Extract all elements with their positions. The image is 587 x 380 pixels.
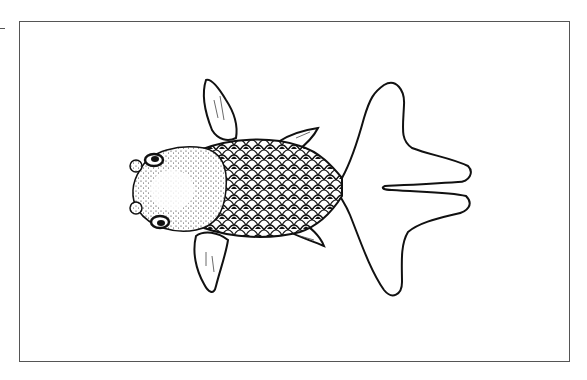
pectoral-fin-bottom [194, 233, 228, 292]
nostril-top [130, 160, 142, 172]
goldfish-illustration [0, 0, 587, 380]
head-highlight [150, 170, 194, 210]
pectoral-fin-top [204, 80, 237, 140]
nostril-bottom [130, 202, 142, 214]
tail-fin [340, 83, 471, 295]
